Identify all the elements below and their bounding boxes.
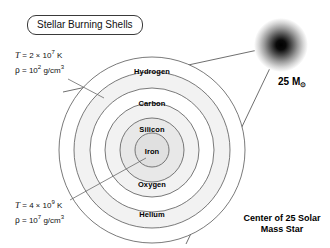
outer-density-unit-exponent: 3 bbox=[61, 64, 64, 70]
outer-temperature-times: × bbox=[36, 51, 40, 60]
outer-density-line: ρ = 102 g/cm3 bbox=[15, 63, 64, 78]
outer-temperature-unit: K bbox=[57, 51, 62, 60]
outer-temperature-symbol: T bbox=[15, 50, 20, 60]
outer-conditions-block: T = 2 × 107 K ρ = 102 g/cm3 bbox=[15, 48, 64, 78]
outer-density-base: 10 bbox=[29, 66, 38, 75]
solar-symbol-icon: ⊙ bbox=[300, 81, 306, 88]
inner-conditions-block: T = 4 × 109 K ρ = 107 g/cm3 bbox=[15, 198, 64, 228]
outer-density-unit: g/cm bbox=[43, 66, 60, 75]
inner-density-unit: g/cm bbox=[43, 216, 60, 225]
inner-density-symbol: ρ bbox=[15, 215, 20, 225]
inner-density-line: ρ = 107 g/cm3 bbox=[15, 213, 64, 228]
outer-density-symbol: ρ bbox=[15, 65, 20, 75]
inner-temperature-unit: K bbox=[57, 201, 62, 210]
inner-temperature-eq: = bbox=[22, 201, 27, 210]
shell-label-carbon: Carbon bbox=[139, 99, 166, 108]
outer-temperature-exponent: 7 bbox=[51, 49, 54, 55]
inner-density-unit-exponent: 3 bbox=[61, 214, 64, 220]
outer-temperature-mantissa: 2 bbox=[29, 51, 33, 60]
inner-density-eq: = bbox=[22, 216, 27, 225]
inner-density-exponent: 7 bbox=[38, 214, 41, 220]
shell-label-helium: Helium bbox=[139, 210, 165, 219]
figure-title-box: Stellar Burning Shells bbox=[27, 15, 143, 35]
outer-temperature-eq: = bbox=[22, 51, 27, 60]
inner-temperature-symbol: T bbox=[15, 200, 20, 210]
inner-temperature-line: T = 4 × 109 K bbox=[15, 198, 64, 213]
shell-label-silicon: Silicon bbox=[139, 125, 164, 134]
star-glyph bbox=[254, 18, 308, 72]
stellar-burning-shells-figure: Stellar Burning Shells T = 2 × 107 K ρ =… bbox=[0, 0, 330, 248]
shell-label-iron: Iron bbox=[145, 147, 160, 156]
inner-density-base: 10 bbox=[29, 216, 38, 225]
star-mass-label: 25 M⊙ bbox=[278, 76, 306, 87]
shell-label-oxygen: Oxygen bbox=[138, 180, 166, 189]
outer-temperature-line: T = 2 × 107 K bbox=[15, 48, 64, 63]
caption-line-2: Mass Star bbox=[236, 224, 328, 235]
outer-density-exponent: 2 bbox=[38, 64, 41, 70]
star-mass-value: 25 M bbox=[278, 76, 300, 87]
caption-line-1: Center of 25 Solar bbox=[236, 213, 328, 224]
inner-temperature-mantissa: 4 bbox=[29, 201, 33, 210]
outer-density-eq: = bbox=[22, 66, 27, 75]
inner-temperature-exponent: 9 bbox=[51, 199, 54, 205]
inner-temperature-times: × bbox=[36, 201, 40, 210]
shell-label-hydrogen: Hydrogen bbox=[134, 67, 170, 76]
figure-caption: Center of 25 Solar Mass Star bbox=[236, 213, 328, 235]
